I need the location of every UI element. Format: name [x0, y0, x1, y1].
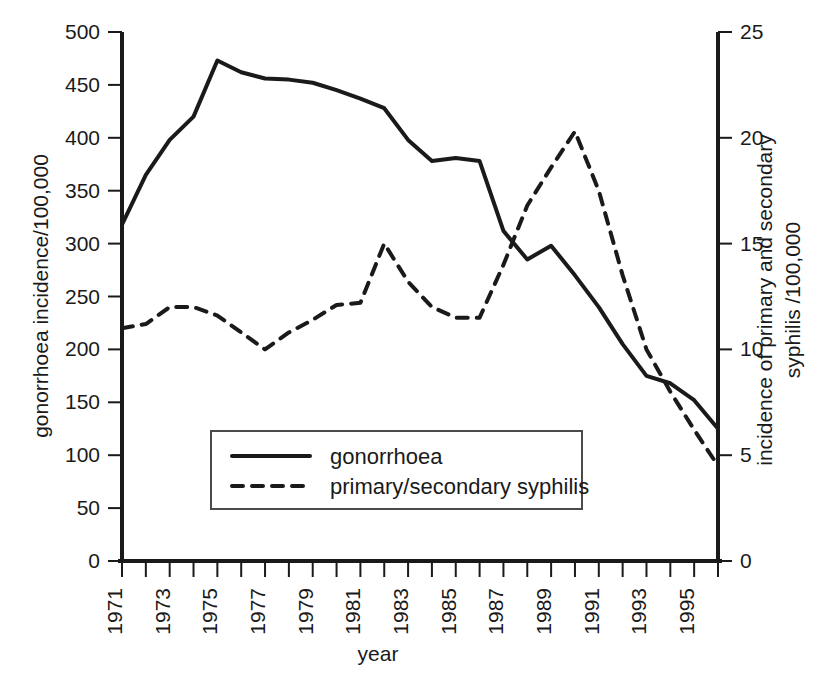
x-tick-label: 1975: [198, 588, 221, 635]
right-axis-title-line1: incidence of primary and secondary: [753, 134, 776, 466]
x-tick-label: 1983: [389, 588, 412, 635]
right-tick-label: 0: [740, 549, 752, 572]
x-axis-tick-labels: 1971197319751977197919811983198519871989…: [103, 588, 698, 635]
series-line-syphilis: [122, 131, 718, 465]
x-tick-label: 1981: [341, 588, 364, 635]
right-axis-title-line2: syphilis /100,000: [781, 222, 804, 378]
left-axis-tick-labels: 050100150200250300350400450500: [65, 20, 100, 572]
left-tick-label: 350: [65, 179, 100, 202]
left-tick-label: 100: [65, 443, 100, 466]
x-axis-title: year: [358, 642, 399, 665]
x-tick-label: 1989: [532, 588, 555, 635]
left-tick-label: 450: [65, 73, 100, 96]
right-tick-label: 5: [740, 443, 752, 466]
left-axis-title: gonorrhoea incidence/100,000: [29, 154, 52, 438]
x-tick-label: 1977: [246, 588, 269, 635]
legend-label-syphilis: primary/secondary syphilis: [330, 474, 589, 499]
left-tick-label: 300: [65, 232, 100, 255]
right-axis-ticks: [718, 32, 732, 561]
left-tick-label: 150: [65, 390, 100, 413]
left-tick-label: 400: [65, 126, 100, 149]
left-tick-label: 500: [65, 20, 100, 43]
left-tick-label: 50: [77, 496, 100, 519]
left-tick-label: 250: [65, 285, 100, 308]
x-tick-label: 1991: [580, 588, 603, 635]
x-tick-label: 1995: [675, 588, 698, 635]
x-tick-label: 1987: [484, 588, 507, 635]
line-chart: 050100150200250300350400450500 051015202…: [0, 0, 824, 682]
x-axis-ticks: [122, 561, 718, 577]
x-tick-label: 1985: [437, 588, 460, 635]
legend: gonorrhoea primary/secondary syphilis: [211, 431, 589, 509]
x-tick-label: 1973: [151, 588, 174, 635]
left-axis-ticks: [108, 32, 122, 561]
left-tick-label: 0: [88, 549, 100, 572]
chart-figure: 050100150200250300350400450500 051015202…: [0, 0, 824, 682]
x-tick-label: 1971: [103, 588, 126, 635]
series-line-gonorrhoea: [122, 61, 718, 429]
legend-label-gonorrhoea: gonorrhoea: [330, 444, 443, 469]
right-tick-label: 25: [740, 20, 763, 43]
x-tick-label: 1979: [294, 588, 317, 635]
x-tick-label: 1993: [627, 588, 650, 635]
left-tick-label: 200: [65, 337, 100, 360]
